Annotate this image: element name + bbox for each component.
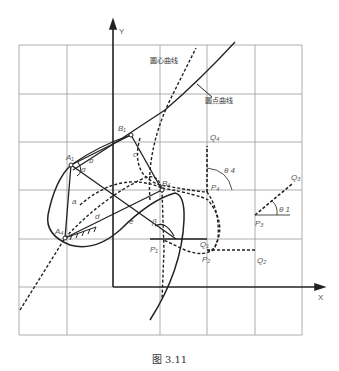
x-axis-label: X bbox=[318, 293, 324, 302]
joint-a4 bbox=[63, 236, 67, 240]
y-axis-arrow-icon bbox=[110, 20, 116, 29]
link-a bbox=[65, 165, 71, 238]
label-alpha: α bbox=[81, 165, 86, 174]
figure-caption: 图 3.11 bbox=[0, 351, 339, 366]
label-link-a: a bbox=[72, 197, 77, 206]
joint-b4 bbox=[160, 188, 164, 192]
label-theta4: θ 4 bbox=[224, 166, 236, 175]
center-curve-upper bbox=[149, 48, 196, 200]
label-theta1: θ 1 bbox=[279, 205, 290, 214]
label-p2: P₂ bbox=[202, 255, 210, 264]
label-a1: A₁ bbox=[65, 153, 74, 162]
joint-b1 bbox=[129, 133, 133, 137]
arc-curve-leader bbox=[197, 84, 212, 97]
label-beta: β bbox=[151, 217, 157, 226]
label-b1: B₁ bbox=[118, 124, 126, 133]
y-axis-label: Y bbox=[119, 27, 125, 36]
label-q2: Q₂ bbox=[257, 256, 266, 265]
label-p4: P₄ bbox=[211, 183, 220, 192]
label-q3: Q₃ bbox=[291, 173, 300, 182]
label-link-c: c bbox=[133, 150, 137, 159]
label-b4: B₄ bbox=[162, 179, 171, 188]
label-q1: Q₁ bbox=[200, 240, 209, 249]
label-q4: Q₄ bbox=[210, 133, 219, 142]
label-a4: A₄ bbox=[54, 227, 64, 236]
joint-a1 bbox=[69, 163, 73, 167]
label-p3: P₃ bbox=[255, 219, 264, 228]
arc-curve-label: 圆点曲线 bbox=[205, 96, 233, 105]
x-axis-arrow-icon bbox=[315, 284, 324, 290]
pose-lines bbox=[207, 146, 292, 250]
label-link-d: d bbox=[95, 212, 100, 221]
center-curve-label: 圆心曲线 bbox=[150, 56, 178, 65]
mechanism-diagram: Y X 圆心曲线 圆点曲线 bbox=[0, 0, 339, 371]
link-b bbox=[71, 135, 131, 165]
theta1-arc bbox=[272, 201, 277, 215]
center-curve bbox=[20, 177, 164, 310]
label-link-b: b bbox=[89, 156, 94, 165]
label-link-e: e bbox=[129, 217, 134, 226]
label-p1: P₁ bbox=[150, 245, 158, 254]
